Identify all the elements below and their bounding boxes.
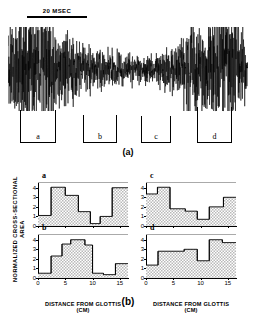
chart-a-xtick-mark-10 bbox=[93, 226, 94, 228]
chart-c-xtick-mark-5 bbox=[173, 226, 174, 228]
chart-c-svg bbox=[146, 182, 237, 227]
chart-c-ytick-0: 0 bbox=[141, 223, 144, 229]
time-scale-bar: 20 MSEC bbox=[27, 7, 87, 18]
chart-d-ytick-mark-2 bbox=[144, 259, 146, 260]
segment-bracket-c: c bbox=[141, 116, 171, 143]
chart-c-ytick-mark-3 bbox=[144, 197, 146, 198]
waveform-svg bbox=[8, 26, 248, 112]
chart-d-xtick-5: 5 bbox=[172, 280, 175, 286]
chart-b-ytick-mark-4 bbox=[36, 240, 38, 241]
chart-c-ytick-4: 4 bbox=[141, 185, 144, 191]
chart-a-ytick-1: 1 bbox=[33, 213, 36, 219]
chart-c-title: c bbox=[150, 171, 154, 180]
segment-label-b: b bbox=[83, 132, 117, 141]
chart-c: c01234 bbox=[146, 182, 236, 226]
figure-root: 20 MSEC a b c d (a) NORMALIZED CROSS- bbox=[0, 0, 256, 324]
waveform-trace bbox=[8, 26, 248, 112]
chart-a-ytick-4: 4 bbox=[33, 185, 36, 191]
chart-d-ytick-3: 3 bbox=[141, 246, 144, 252]
panel-b-caption: (b) bbox=[0, 296, 256, 307]
chart-b-ytick-mark-2 bbox=[36, 259, 38, 260]
segment-label-c: c bbox=[141, 132, 171, 141]
y-axis-label: NORMALIZED CROSS-SECTIONAL AREA bbox=[12, 174, 26, 284]
chart-a-xtick-mark-0 bbox=[38, 226, 39, 228]
chart-b-ytick-4: 4 bbox=[33, 237, 36, 243]
chart-b-svg bbox=[38, 234, 129, 279]
chart-d-xtick-0: 0 bbox=[144, 280, 147, 286]
panel-b-area-functions: NORMALIZED CROSS-SECTIONAL AREA a01234 b… bbox=[0, 168, 256, 324]
chart-b-ytick-mark-1 bbox=[36, 268, 38, 269]
chart-b-xtick-15: 15 bbox=[116, 280, 123, 286]
chart-c-ytick-mark-1 bbox=[144, 216, 146, 217]
chart-b-ytick-3: 3 bbox=[33, 246, 36, 252]
segment-bracket-b: b bbox=[83, 115, 117, 143]
chart-a-ytick-2: 2 bbox=[33, 204, 36, 210]
chart-d-title: d bbox=[150, 223, 154, 232]
panel-a-waveform: 20 MSEC a b c d (a) bbox=[0, 0, 256, 168]
scale-bar-label: 20 MSEC bbox=[27, 7, 87, 15]
chart-d-ytick-2: 2 bbox=[141, 256, 144, 262]
chart-b-xtick-10: 10 bbox=[89, 280, 96, 286]
chart-d-ytick-mark-4 bbox=[144, 240, 146, 241]
scale-bar-line bbox=[27, 16, 87, 18]
chart-a-xtick-mark-15 bbox=[120, 226, 121, 228]
chart-a-ytick-mark-3 bbox=[36, 197, 38, 198]
chart-a-ytick-mark-4 bbox=[36, 188, 38, 189]
chart-d-ytick-mark-1 bbox=[144, 268, 146, 269]
segment-bracket-a: a bbox=[20, 110, 56, 143]
chart-d-ytick-4: 4 bbox=[141, 237, 144, 243]
segment-label-d: d bbox=[197, 132, 232, 141]
chart-b-xtick-5: 5 bbox=[64, 280, 67, 286]
chart-c-ytick-2: 2 bbox=[141, 204, 144, 210]
chart-c-xtick-mark-0 bbox=[146, 226, 147, 228]
chart-b-ytick-2: 2 bbox=[33, 256, 36, 262]
chart-c-xtick-mark-10 bbox=[201, 226, 202, 228]
chart-c-xtick-mark-15 bbox=[228, 226, 229, 228]
chart-d-xtick-15: 15 bbox=[224, 280, 231, 286]
chart-b-ytick-mark-3 bbox=[36, 249, 38, 250]
chart-d-svg bbox=[146, 234, 237, 279]
chart-a-ytick-mark-1 bbox=[36, 216, 38, 217]
chart-a-ytick-0: 0 bbox=[33, 223, 36, 229]
chart-b: b01234051015 bbox=[38, 234, 128, 278]
chart-b-ytick-1: 1 bbox=[33, 265, 36, 271]
chart-a: a01234 bbox=[38, 182, 128, 226]
chart-c-ytick-3: 3 bbox=[141, 194, 144, 200]
chart-d: d01234051015 bbox=[146, 234, 236, 278]
chart-d-ytick-mark-3 bbox=[144, 249, 146, 250]
chart-a-ytick-3: 3 bbox=[33, 194, 36, 200]
chart-c-ytick-mark-2 bbox=[144, 207, 146, 208]
chart-c-ytick-mark-4 bbox=[144, 188, 146, 189]
segment-label-a: a bbox=[20, 132, 56, 141]
chart-a-ytick-mark-2 bbox=[36, 207, 38, 208]
chart-d-xtick-10: 10 bbox=[197, 280, 204, 286]
chart-c-ytick-1: 1 bbox=[141, 213, 144, 219]
chart-a-svg bbox=[38, 182, 129, 227]
chart-d-ytick-1: 1 bbox=[141, 265, 144, 271]
chart-a-title: a bbox=[42, 171, 46, 180]
segment-bracket-d: d bbox=[197, 107, 232, 143]
chart-a-xtick-mark-5 bbox=[65, 226, 66, 228]
chart-b-title: b bbox=[42, 223, 46, 232]
chart-b-xtick-0: 0 bbox=[36, 280, 39, 286]
panel-a-caption: (a) bbox=[0, 147, 256, 157]
